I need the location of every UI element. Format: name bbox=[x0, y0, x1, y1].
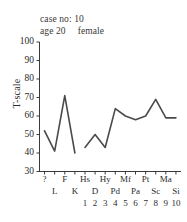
x-axis-label-number: 4 bbox=[113, 198, 118, 208]
x-axis-label-scale: Hs bbox=[80, 174, 90, 184]
x-axis-label-number: 8 bbox=[153, 198, 158, 208]
x-axis-label-scale: Sc bbox=[151, 186, 160, 196]
x-axis-label-scale: Mf bbox=[120, 174, 131, 184]
x-axis-label-number: 3 bbox=[103, 198, 108, 208]
profile-line-validity bbox=[45, 96, 75, 153]
data-line-group bbox=[45, 96, 176, 153]
x-axis-label-number: 1 bbox=[83, 198, 88, 208]
profile-line-clinical bbox=[85, 99, 176, 147]
x-axis-label-number: 6 bbox=[133, 198, 138, 208]
x-axis-label-number: 9 bbox=[164, 198, 169, 208]
x-axis-label-number: 7 bbox=[143, 198, 148, 208]
x-axis-label-scale: Pt bbox=[142, 174, 150, 184]
x-axis-row-top: ?FHsHyMfPtMa bbox=[0, 174, 187, 186]
x-axis-label-number: 10 bbox=[171, 198, 180, 208]
mmpi-profile-chart: case no: 10 age 20female T-scale 3040506… bbox=[0, 0, 187, 222]
x-axis-label-scale: Si bbox=[172, 186, 180, 196]
x-axis-label-scale: Ma bbox=[160, 174, 172, 184]
x-axis-label-scale: K bbox=[72, 186, 79, 196]
x-axis-label-scale: Pa bbox=[131, 186, 140, 196]
x-axis-label-scale: D bbox=[92, 186, 99, 196]
x-axis-label-scale: ? bbox=[43, 174, 47, 184]
x-axis-label-number: 5 bbox=[123, 198, 128, 208]
x-axis-label-scale: L bbox=[52, 186, 58, 196]
x-axis-label-scale: Pd bbox=[111, 186, 121, 196]
x-axis-label-scale: Hy bbox=[100, 174, 111, 184]
x-axis-row-middle: LKDPdPaScSi bbox=[0, 186, 187, 198]
x-axis-row-numbers: 12345678910 bbox=[0, 198, 187, 210]
x-axis-label-scale: F bbox=[62, 174, 67, 184]
x-axis-label-number: 2 bbox=[93, 198, 98, 208]
